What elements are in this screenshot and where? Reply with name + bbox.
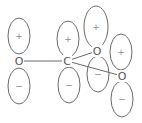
- phase-sign: +: [92, 22, 100, 32]
- atom-label-c: C: [63, 55, 71, 68]
- phase-sign: +: [64, 34, 72, 44]
- atom-label-o2: O: [93, 45, 102, 58]
- orbital-lobe-negative: −: [111, 81, 133, 117]
- orbital-lobe-positive: +: [110, 34, 132, 70]
- orbital-lobe-negative: −: [8, 68, 30, 104]
- phase-sign: +: [117, 47, 125, 57]
- carbonate-p-orbital-diagram: +−+−+−+−OCOO: [0, 0, 142, 123]
- atom-label-o3: O: [118, 70, 127, 83]
- orbital-lobe-positive: +: [57, 21, 79, 57]
- orbital-lobe-positive: +: [84, 6, 108, 48]
- orbital-lobe-negative: −: [58, 67, 80, 103]
- diagram-canvas: +−+−+−+−OCOO: [0, 0, 142, 123]
- phase-sign: −: [65, 80, 73, 90]
- phase-sign: −: [15, 81, 23, 91]
- orbital-lobe-positive: +: [8, 18, 30, 54]
- phase-sign: −: [118, 94, 126, 104]
- phase-sign: +: [15, 31, 23, 41]
- atom-label-o1: O: [15, 55, 24, 68]
- orbital-lobe-negative: −: [87, 56, 109, 92]
